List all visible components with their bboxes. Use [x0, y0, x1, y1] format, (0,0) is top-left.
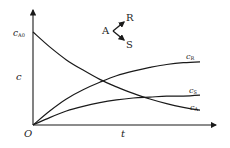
- product-s-label: S: [126, 40, 133, 50]
- curve-c-s: [33, 95, 200, 125]
- y-axis-label: c: [16, 72, 22, 82]
- curve-label-c-s: cS: [189, 87, 197, 95]
- x-axis-label: t: [121, 129, 125, 139]
- curve-c-r: [33, 62, 200, 125]
- reaction-branch-s-arrow: [113, 31, 124, 40]
- y-start-label: cA0: [13, 29, 25, 38]
- reaction-branch-r-arrow: [113, 22, 124, 31]
- curve-c-a: [33, 32, 200, 110]
- product-r-label: R: [126, 13, 134, 23]
- origin-label: O: [24, 129, 32, 139]
- curve-label-c-a: cA: [190, 104, 198, 112]
- reactant-a-label: A: [102, 26, 109, 36]
- curve-label-c-r: cR: [186, 53, 194, 61]
- concentration-time-chart: [0, 0, 230, 148]
